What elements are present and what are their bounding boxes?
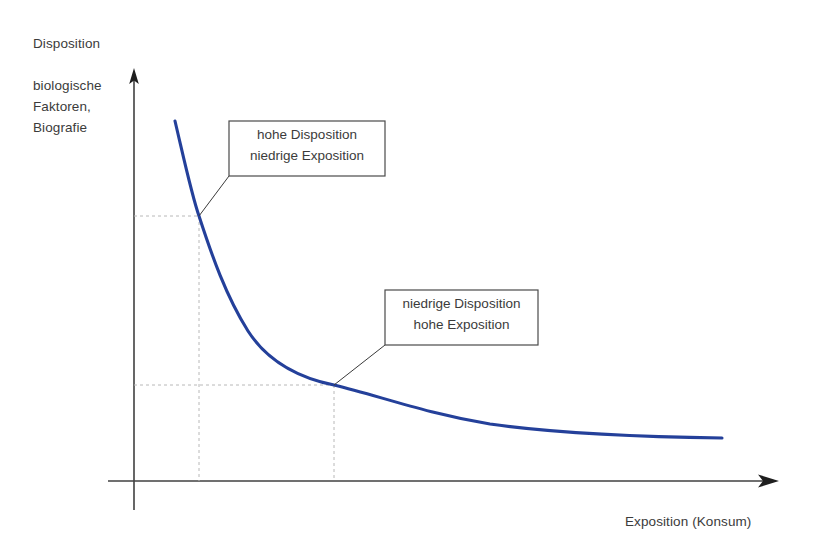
callout-1-leader-line [199, 176, 229, 216]
disposition-exposition-chart [0, 0, 819, 541]
axes-group [108, 68, 779, 510]
diagram-canvas: Disposition biologische Faktoren, Biogra… [0, 0, 819, 541]
guide-lines-group [134, 216, 335, 481]
page-title: Disposition [33, 33, 100, 54]
callout-2-leader-line [334, 345, 385, 385]
callout-2-label: niedrige Disposition hohe Exposition [385, 293, 538, 335]
callout-1-label: hohe Disposition niedrige Exposition [229, 124, 385, 166]
y-axis-sublabel: biologische Faktoren, Biografie [33, 75, 102, 138]
x-axis-label: Exposition (Konsum) [625, 511, 751, 532]
